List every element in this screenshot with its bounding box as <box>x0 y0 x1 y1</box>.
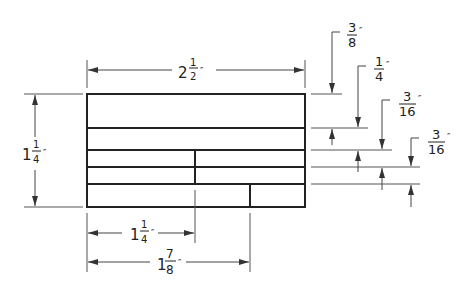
svg-text:1: 1 <box>130 226 140 244</box>
svg-text:3: 3 <box>432 127 440 142</box>
svg-text:4: 4 <box>33 154 39 165</box>
svg-text:8: 8 <box>348 35 356 50</box>
svg-text:7: 7 <box>166 247 174 261</box>
dimension-lines <box>35 32 419 262</box>
dim-label-right-3-16-a: 3 16 ″ <box>399 89 422 119</box>
svg-text:3: 3 <box>348 20 356 35</box>
svg-text:3: 3 <box>403 89 411 104</box>
svg-text:4: 4 <box>141 234 147 245</box>
svg-text:1: 1 <box>141 219 147 230</box>
svg-text:″: ″ <box>386 60 390 70</box>
svg-text:2: 2 <box>190 71 196 82</box>
svg-text:16: 16 <box>399 104 416 119</box>
svg-text:8: 8 <box>166 263 174 277</box>
technical-drawing: 2 1 2 ″ 1 1 4 ″ 1 1 4 ″ 1 7 8 ″ 3 8 ″ 1 … <box>0 0 475 293</box>
dim-label-right-3-8: 3 8 ″ <box>347 20 363 50</box>
svg-text:1: 1 <box>22 146 32 164</box>
svg-text:2: 2 <box>178 64 188 82</box>
svg-text:″: ″ <box>43 148 47 158</box>
dim-label-overall-height: 1 1 4 ″ <box>22 139 47 165</box>
dim-label-bottom-1: 1 1 4 ″ <box>130 219 155 245</box>
dim-label-bottom-2: 1 7 8 ″ <box>157 247 182 277</box>
svg-text:″: ″ <box>418 94 422 104</box>
svg-text:″: ″ <box>447 132 451 142</box>
svg-text:″: ″ <box>178 258 182 268</box>
svg-text:1: 1 <box>375 54 383 69</box>
svg-text:16: 16 <box>428 142 445 157</box>
dim-label-overall-width: 2 1 2 ″ <box>178 57 204 82</box>
svg-text:1: 1 <box>190 57 196 68</box>
svg-text:″: ″ <box>200 66 204 76</box>
svg-text:4: 4 <box>375 69 383 84</box>
dim-label-right-3-16-b: 3 16 ″ <box>428 127 451 157</box>
svg-text:1: 1 <box>33 139 39 150</box>
dim-label-right-1-4: 1 4 ″ <box>374 54 390 84</box>
svg-text:″: ″ <box>151 228 155 238</box>
svg-text:″: ″ <box>359 26 363 36</box>
part-outline <box>87 94 305 207</box>
